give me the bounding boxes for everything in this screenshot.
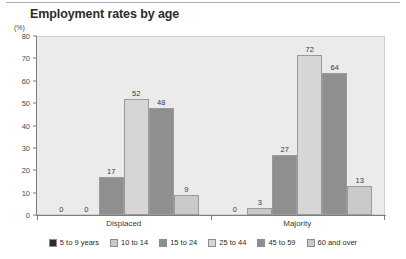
bar-rect: [124, 99, 149, 215]
bar-value-label: 64: [331, 63, 339, 72]
y-axis-tick-label: 80: [0, 32, 30, 41]
y-axis-tick-label: 10: [0, 188, 30, 197]
y-axis-tick-label: 40: [0, 121, 30, 130]
bar[interactable]: 27: [272, 37, 297, 215]
bar[interactable]: 17: [99, 37, 124, 215]
legend-item[interactable]: 15 to 24: [159, 238, 197, 247]
bar-rect: [174, 195, 199, 215]
legend-swatch-icon: [49, 239, 57, 247]
bar-value-label: 9: [184, 185, 188, 194]
legend-swatch-icon: [307, 239, 315, 247]
y-axis-tick-label: 20: [0, 166, 30, 175]
bar-value-label: 0: [233, 205, 237, 214]
y-axis-tick-label: 50: [0, 99, 30, 108]
legend-item[interactable]: 25 to 44: [208, 238, 246, 247]
legend-label: 25 to 44: [219, 238, 246, 247]
bar[interactable]: 3: [247, 37, 272, 215]
legend-swatch-icon: [257, 239, 265, 247]
bar[interactable]: 64: [322, 37, 347, 215]
bar-value-label: 17: [107, 167, 115, 176]
legend-swatch-icon: [110, 239, 118, 247]
bar-rect: [347, 186, 372, 215]
legend-swatch-icon: [159, 239, 167, 247]
legend-item[interactable]: 10 to 14: [110, 238, 148, 247]
legend-label: 45 to 59: [268, 238, 295, 247]
bar-rect: [297, 55, 322, 215]
bar[interactable]: 0: [74, 37, 99, 215]
y-axis-tick-label: 0: [0, 211, 30, 220]
bar-value-label: 0: [59, 205, 63, 214]
legend-label: 15 to 24: [170, 238, 197, 247]
y-axis-tick-label: 30: [0, 143, 30, 152]
bar-value-label: 52: [132, 89, 140, 98]
y-axis-tick-label: 60: [0, 76, 30, 85]
bar[interactable]: 0: [222, 37, 247, 215]
bar-value-label: 72: [306, 45, 314, 54]
legend-item[interactable]: 60 and over: [307, 238, 358, 247]
bar[interactable]: 9: [174, 37, 199, 215]
x-axis-tick-mark: [384, 216, 385, 220]
bar[interactable]: 48: [149, 37, 174, 215]
bar[interactable]: 72: [297, 37, 322, 215]
bar[interactable]: 52: [124, 37, 149, 215]
bar-value-label: 3: [258, 198, 262, 207]
bar-rect: [272, 155, 297, 215]
x-axis-tick-mark: [37, 216, 38, 220]
y-axis-tick-label: 70: [0, 54, 30, 63]
x-axis-tick-mark: [211, 216, 212, 220]
bar-value-label: 27: [281, 145, 289, 154]
bars-layer: 0017524890327726413: [37, 37, 384, 215]
bar-rect: [99, 177, 124, 215]
bar-rect: [247, 208, 272, 215]
legend-label: 10 to 14: [121, 238, 148, 247]
bar-value-label: 13: [356, 176, 364, 185]
legend-item[interactable]: 5 to 9 years: [49, 238, 99, 247]
legend-item[interactable]: 45 to 59: [257, 238, 295, 247]
legend-swatch-icon: [208, 239, 216, 247]
bar-rect: [149, 108, 174, 215]
bar[interactable]: 0: [49, 37, 74, 215]
legend-label: 5 to 9 years: [60, 238, 99, 247]
chart-legend: 5 to 9 years10 to 1415 to 2425 to 4445 t…: [0, 238, 406, 247]
bar-value-label: 48: [157, 98, 165, 107]
bar-value-label: 0: [84, 205, 88, 214]
x-axis-group-label: Majority: [283, 219, 311, 228]
chart-plot-wrapper: 01020304050607080 0017524890327726413 Di…: [0, 0, 406, 259]
bar[interactable]: 13: [347, 37, 372, 215]
bar-rect: [322, 73, 347, 215]
legend-label: 60 and over: [318, 238, 358, 247]
x-axis-group-label: Displaced: [106, 219, 141, 228]
